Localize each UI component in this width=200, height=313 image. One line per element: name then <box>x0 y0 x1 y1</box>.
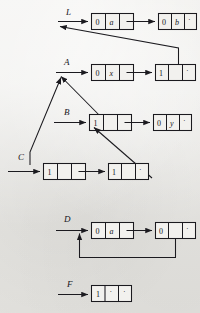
pointer-label-a: A <box>63 57 70 67</box>
pointer-label-d: D <box>63 214 71 224</box>
node-l-2: 0 b · <box>159 14 197 30</box>
list-row-a: A 0 x 1 · <box>56 57 196 81</box>
figure-canvas: L 0 a 0 b · A 0 <box>0 0 200 313</box>
list-row-d: D 0 a 0 · <box>56 214 196 258</box>
list-row-f: F 1 · · <box>58 279 132 302</box>
node-b-2-tag: 0 <box>157 119 161 128</box>
node-a-1-atom: x <box>109 69 114 78</box>
pointer-label-c: C <box>18 152 25 162</box>
node-a-2: 1 · <box>156 65 196 81</box>
node-l-2-atom: b <box>175 18 179 27</box>
node-d-1-tag: 0 <box>96 227 100 236</box>
pointer-label-l: L <box>65 7 71 17</box>
pointer-c1-to-a <box>30 78 61 166</box>
node-l-1-tag: 0 <box>96 18 100 27</box>
node-d-2: 0 · <box>156 223 196 239</box>
linked-list-figure: L 0 a 0 b · A 0 <box>0 0 200 313</box>
node-b-2-nil: · <box>183 116 186 125</box>
node-c-2-nil: · <box>139 165 142 174</box>
pointer-label-b: B <box>64 107 70 117</box>
node-f-1: 1 · · <box>92 286 132 302</box>
pointer-a2-to-l <box>60 27 179 65</box>
node-a-1-tag: 0 <box>96 69 100 78</box>
list-row-b: B 1 0 y · <box>54 107 192 131</box>
pointer-label-f: F <box>66 279 73 289</box>
node-d-2-nil: · <box>186 224 189 233</box>
node-d-2-tag: 0 <box>159 227 163 236</box>
node-f-1-tag: 1 <box>96 290 100 299</box>
node-d-1-atom: a <box>110 227 114 236</box>
node-f-1-atom: · <box>110 287 113 296</box>
node-c-2: 1 · <box>109 164 149 180</box>
node-f-1-nil: · <box>123 287 126 296</box>
node-c-1-tag: 1 <box>48 168 52 177</box>
node-l-2-tag: 0 <box>162 18 166 27</box>
node-b-1-tag: 1 <box>94 119 98 128</box>
node-b-2: 0 y · <box>154 115 192 131</box>
node-c-2-tag: 1 <box>112 168 116 177</box>
node-a-2-nil: · <box>186 66 189 75</box>
node-l-1-atom: a <box>110 18 114 27</box>
node-a-2-tag: 1 <box>159 69 163 78</box>
list-row-l: L 0 a 0 b · <box>58 7 197 30</box>
node-l-2-nil: · <box>188 15 191 24</box>
node-b-2-atom: y <box>169 119 174 128</box>
